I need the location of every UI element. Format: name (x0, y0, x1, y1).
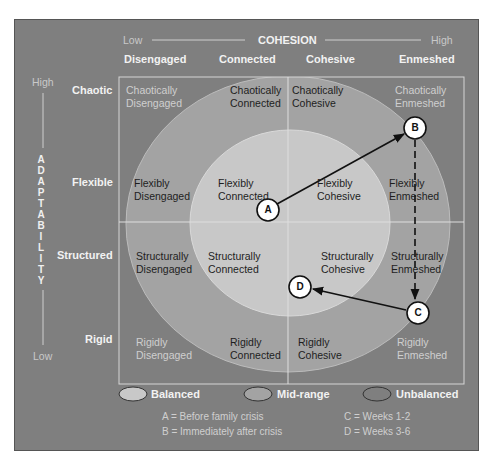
cell-structurally-cohesive: Structurally Cohesive (321, 250, 374, 275)
cohesion-level-cohesive: Cohesive (306, 53, 355, 66)
adaptability-level-chaotic: Chaotic (72, 84, 112, 97)
marker-d-label: D (295, 281, 305, 294)
adaptability-low-label: Low (33, 350, 52, 363)
cell-chaotically-disengaged: Chaotically Disengaged (126, 84, 182, 109)
adaptability-level-flexible: Flexible (72, 176, 113, 189)
key-c: C = Weeks 1-2 (344, 410, 410, 423)
marker-b-label: B (410, 122, 420, 135)
cell-rigidly-connected: Rigidly Connected (230, 336, 281, 361)
cell-structurally-connected: Structurally Connected (208, 250, 261, 275)
adaptability-level-structured: Structured (57, 249, 113, 262)
cell-structurally-enmeshed: Structurally Enmeshed (391, 250, 444, 275)
cell-flexibly-enmeshed: Flexibly Enmeshed (389, 177, 439, 202)
cell-rigidly-enmeshed: Rigidly Enmeshed (397, 336, 447, 361)
cell-chaotically-enmeshed: Chaotically Enmeshed (395, 84, 446, 109)
legend-label-balanced: Balanced (151, 388, 200, 400)
cohesion-title: COHESION (258, 34, 317, 47)
cohesion-level-disengaged: Disengaged (124, 53, 186, 66)
marker-c-label: C (413, 307, 423, 320)
cell-flexibly-connected: Flexibly Connected (218, 177, 269, 202)
legend-swatch-balanced (119, 387, 147, 401)
cohesion-high-label: High (431, 34, 453, 47)
legend-swatch-unbalanced (363, 387, 391, 401)
cell-structurally-disengaged: Structurally Disengaged (136, 250, 192, 275)
adaptability-level-rigid: Rigid (85, 333, 113, 346)
legend-label-unbalanced: Unbalanced (396, 388, 458, 400)
cohesion-low-label: Low (123, 34, 142, 47)
cell-rigidly-disengaged: Rigidly Disengaged (136, 336, 192, 361)
legend-swatch-mid-range (244, 387, 272, 401)
key-d: D = Weeks 3-6 (344, 425, 410, 438)
cohesion-level-enmeshed: Enmeshed (399, 53, 455, 66)
cell-rigidly-cohesive: Rigidly Cohesive (298, 336, 342, 361)
cell-flexibly-disengaged: Flexibly Disengaged (134, 177, 190, 202)
marker-a-label: A (263, 204, 273, 217)
cell-flexibly-cohesive: Flexibly Cohesive (317, 177, 361, 202)
cohesion-level-connected: Connected (219, 53, 276, 66)
key-b: B = Immediately after crisis (162, 425, 282, 438)
key-a: A = Before family crisis (162, 410, 263, 423)
legend-label-mid-range: Mid-range (277, 388, 330, 400)
cell-chaotically-connected: Chaotically Connected (230, 84, 281, 109)
adaptability-high-label: High (32, 76, 54, 89)
cell-chaotically-cohesive: Chaotically Cohesive (292, 84, 343, 109)
